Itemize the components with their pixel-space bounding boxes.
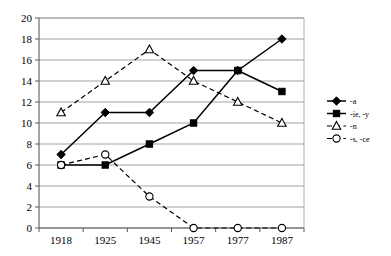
y-axis-tick-label: 20 <box>21 12 33 24</box>
data-point-marker <box>189 76 197 84</box>
data-point-marker <box>57 108 65 116</box>
x-axis-tick-label: 1945 <box>138 234 161 246</box>
data-point-marker <box>102 151 109 158</box>
chart-canvas: 02468101214161820 1918192519451957197719… <box>0 0 391 256</box>
data-point-marker <box>146 193 153 200</box>
y-axis-tick-label: 14 <box>21 75 33 87</box>
series-line <box>61 39 282 155</box>
data-point-marker <box>146 141 152 147</box>
legend-entry-label: -ie, -y <box>350 110 369 119</box>
y-axis-tick-label: 0 <box>27 222 33 234</box>
data-point-marker <box>279 88 285 94</box>
y-axis-tick-label: 2 <box>27 201 33 213</box>
data-point-marker <box>234 97 242 105</box>
x-axis-ticks: 191819251945195719771987 <box>39 228 304 246</box>
legend-marker <box>333 110 339 116</box>
y-axis-tick-label: 10 <box>21 117 33 129</box>
x-axis-tick-label: 1925 <box>94 234 117 246</box>
series-line <box>61 71 282 166</box>
y-axis-ticks: 02468101214161820 <box>21 12 39 234</box>
x-axis-tick-label: 1987 <box>271 234 294 246</box>
legend-marker <box>332 121 340 129</box>
x-axis-tick-label: 1918 <box>50 234 73 246</box>
data-point-marker <box>278 118 286 126</box>
data-point-marker <box>235 67 241 73</box>
y-axis-tick-label: 6 <box>27 159 33 171</box>
legend-entry-label: -s, -ce <box>350 135 370 144</box>
x-axis-tick-label: 1977 <box>227 234 250 246</box>
data-point-marker <box>102 162 108 168</box>
data-point-marker <box>57 161 64 168</box>
legend-entry-label: -n <box>350 122 357 131</box>
chart-legend: -a-ie, -y-n-s, -ce <box>327 97 370 144</box>
series-lines-group <box>61 39 282 228</box>
y-axis-tick-label: 18 <box>21 33 33 45</box>
gridlines-group <box>39 18 304 228</box>
legend-marker <box>332 97 340 105</box>
y-axis-tick-label: 8 <box>27 138 33 150</box>
data-point-marker <box>145 45 153 53</box>
y-axis-tick-label: 4 <box>27 180 33 192</box>
y-axis-tick-label: 12 <box>21 96 32 108</box>
x-axis-tick-label: 1957 <box>183 234 206 246</box>
line-chart: 02468101214161820 1918192519451957197719… <box>0 0 391 256</box>
series-line <box>61 50 282 124</box>
legend-marker <box>333 135 340 142</box>
data-point-marker <box>234 224 241 231</box>
data-point-marker <box>190 120 196 126</box>
legend-entry-label: -a <box>350 97 357 106</box>
data-point-marker <box>101 76 109 84</box>
y-axis-tick-label: 16 <box>21 54 33 66</box>
data-point-marker <box>278 224 285 231</box>
data-point-marker <box>190 224 197 231</box>
